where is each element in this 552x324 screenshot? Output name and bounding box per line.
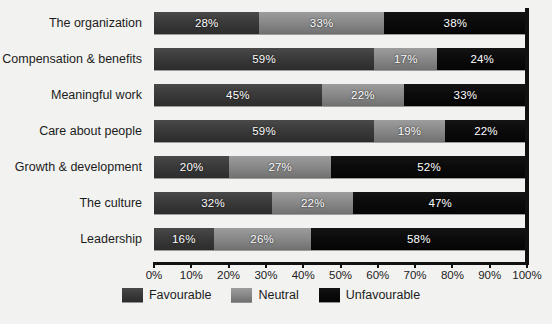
- bar-segment-neutral: 22%: [322, 84, 404, 106]
- segment-value-label: 24%: [470, 53, 494, 65]
- x-axis-tick-label: 90%: [478, 269, 501, 281]
- segment-value-label: 47%: [428, 197, 452, 209]
- bar-segment-neutral: 22%: [272, 192, 353, 214]
- legend-item[interactable]: Unfavourable: [319, 288, 420, 302]
- bar-row: 59%17%24%: [154, 48, 527, 70]
- bar-segment-unfavourable: 33%: [404, 84, 527, 106]
- stacked-bar: 45%22%33%: [154, 84, 527, 106]
- legend-label: Unfavourable: [346, 288, 420, 302]
- segment-value-label: 32%: [201, 197, 225, 209]
- legend-item[interactable]: Neutral: [231, 288, 298, 302]
- bar-row: 59%19%22%: [154, 120, 527, 142]
- segment-value-label: 45%: [226, 89, 250, 101]
- plot-area: 28%33%38%59%17%24%45%22%33%59%19%22%20%2…: [154, 10, 527, 262]
- segment-value-label: 20%: [180, 161, 204, 173]
- segment-value-label: 33%: [310, 17, 334, 29]
- x-axis-tick-label: 40%: [292, 269, 315, 281]
- x-axis-tick-label: 0%: [146, 269, 163, 281]
- segment-value-label: 26%: [250, 233, 274, 245]
- segment-value-label: 59%: [252, 53, 276, 65]
- bar-segment-unfavourable: 47%: [353, 192, 527, 214]
- bar-segment-unfavourable: 52%: [331, 156, 527, 178]
- x-axis-tick: [265, 262, 267, 268]
- segment-value-label: 58%: [407, 233, 431, 245]
- bar-segment-unfavourable: 24%: [437, 48, 527, 70]
- stacked-bar: 16%26%58%: [154, 228, 527, 250]
- bar-segment-favourable: 28%: [154, 12, 259, 34]
- plot-right-border: [525, 8, 529, 265]
- x-axis-tick-label: 10%: [180, 269, 203, 281]
- legend-item[interactable]: Favourable: [122, 288, 212, 302]
- bar-segment-favourable: 16%: [154, 228, 214, 250]
- segment-value-label: 17%: [394, 53, 418, 65]
- category-label: Leadership: [80, 228, 142, 250]
- bar-segment-unfavourable: 22%: [445, 120, 527, 142]
- segment-value-label: 28%: [195, 17, 219, 29]
- bar-segment-unfavourable: 38%: [384, 12, 527, 34]
- x-axis-tick: [302, 262, 304, 268]
- stacked-bar: 59%19%22%: [154, 120, 527, 142]
- bar-segment-neutral: 19%: [374, 120, 445, 142]
- x-axis-tick-label: 20%: [217, 269, 240, 281]
- category-label: Care about people: [39, 120, 142, 142]
- x-axis-tick-label: 60%: [366, 269, 389, 281]
- x-axis-tick-label: 30%: [254, 269, 277, 281]
- x-axis-tick: [228, 262, 230, 268]
- chart-legend: FavourableNeutralUnfavourable: [0, 288, 552, 302]
- x-axis-tick-label: 80%: [441, 269, 464, 281]
- bar-segment-unfavourable: 58%: [311, 228, 527, 250]
- segment-value-label: 38%: [444, 17, 468, 29]
- segment-value-label: 27%: [268, 161, 292, 173]
- segment-value-label: 52%: [417, 161, 441, 173]
- x-axis-tick-label: 100%: [512, 269, 541, 281]
- bar-segment-favourable: 20%: [154, 156, 229, 178]
- bar-row: 28%33%38%: [154, 12, 527, 34]
- bar-segment-favourable: 45%: [154, 84, 322, 106]
- category-label: The culture: [79, 192, 142, 214]
- bar-row: 20%27%52%: [154, 156, 527, 178]
- legend-swatch-icon: [319, 288, 340, 302]
- x-axis-tick: [526, 262, 528, 268]
- x-axis-tick: [153, 262, 155, 268]
- stacked-bar: 28%33%38%: [154, 12, 527, 34]
- x-axis-tick-label: 50%: [329, 269, 352, 281]
- stacked-bar: 32%22%47%: [154, 192, 527, 214]
- category-label: Meaningful work: [51, 84, 142, 106]
- x-axis-tick-label: 70%: [404, 269, 427, 281]
- legend-label: Neutral: [258, 288, 298, 302]
- x-axis-tick: [190, 262, 192, 268]
- bar-segment-neutral: 17%: [374, 48, 437, 70]
- segment-value-label: 22%: [351, 89, 375, 101]
- x-axis-tick: [414, 262, 416, 268]
- bar-segment-favourable: 59%: [154, 120, 374, 142]
- bar-segment-neutral: 26%: [214, 228, 311, 250]
- bar-segment-neutral: 27%: [229, 156, 331, 178]
- segment-value-label: 22%: [301, 197, 325, 209]
- bar-row: 16%26%58%: [154, 228, 527, 250]
- bar-segment-favourable: 32%: [154, 192, 272, 214]
- category-label: Compensation & benefits: [2, 48, 142, 70]
- category-axis-labels: The organizationCompensation & benefitsM…: [0, 10, 148, 262]
- x-axis-tick: [451, 262, 453, 268]
- segment-value-label: 22%: [474, 125, 498, 137]
- segment-value-label: 16%: [172, 233, 196, 245]
- stacked-bar: 59%17%24%: [154, 48, 527, 70]
- category-label: Growth & development: [15, 156, 142, 178]
- chart-page: The organizationCompensation & benefitsM…: [0, 0, 552, 324]
- segment-value-label: 19%: [398, 125, 422, 137]
- bar-segment-neutral: 33%: [259, 12, 383, 34]
- legend-swatch-icon: [231, 288, 252, 302]
- stacked-bar: 20%27%52%: [154, 156, 527, 178]
- legend-swatch-icon: [122, 288, 143, 302]
- x-axis-tick: [377, 262, 379, 268]
- segment-value-label: 33%: [454, 89, 478, 101]
- bar-row: 32%22%47%: [154, 192, 527, 214]
- category-label: The organization: [49, 12, 142, 34]
- x-axis-tick: [340, 262, 342, 268]
- legend-label: Favourable: [149, 288, 212, 302]
- x-axis-tick: [489, 262, 491, 268]
- segment-value-label: 59%: [252, 125, 276, 137]
- bar-segment-favourable: 59%: [154, 48, 374, 70]
- bar-row: 45%22%33%: [154, 84, 527, 106]
